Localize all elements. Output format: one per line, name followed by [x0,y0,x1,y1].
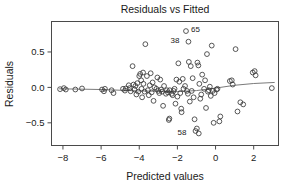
data-point [204,106,209,111]
data-point [130,64,135,69]
x-tick-label: 0 [213,152,218,163]
data-point [143,42,148,47]
data-point [190,76,195,81]
x-axis-title: Predicted values [126,170,204,182]
data-point [233,47,238,52]
x-tick-label: 2 [251,152,256,163]
data-point [176,61,181,66]
scatter-points [58,29,275,136]
outlier-label-38: 38 [171,36,180,45]
data-point [126,83,131,88]
data-point [184,29,189,34]
x-tick-label: −4 [134,152,145,163]
data-point [149,90,154,95]
chart-container: Residuals vs Fitted −8−6−4−202 −0.50.00.… [0,0,292,185]
data-point [192,117,197,122]
data-point [203,78,208,83]
data-point [197,81,202,86]
y-axis-title: Residuals [3,61,15,107]
data-point [161,103,166,108]
data-point [80,86,85,91]
data-point [209,43,214,48]
data-point [217,119,222,124]
outlier-label-65: 65 [191,25,200,34]
data-point [146,93,151,98]
data-point [218,114,223,119]
data-point [139,78,144,83]
data-point [173,101,178,106]
data-point [180,76,185,81]
data-point [183,84,188,89]
data-point [235,109,240,114]
data-point [141,81,146,86]
data-point [200,72,205,77]
data-point [151,98,156,103]
outlier-label-58: 58 [178,128,187,137]
x-axis-ticks: −8−6−4−202 [58,146,257,163]
data-point [186,39,191,44]
data-point [188,64,193,69]
data-point [191,95,196,100]
y-axis-ticks: −0.50.00.5 [26,46,52,128]
x-tick-label: −2 [172,152,183,163]
y-tick-label: 0.5 [31,46,44,57]
x-tick-label: −6 [96,152,107,163]
data-point [211,120,216,125]
data-point [150,80,155,85]
x-tick-label: −8 [58,152,69,163]
data-point [139,86,144,91]
data-point [147,83,152,88]
y-tick-label: 0.0 [31,82,44,93]
y-tick-label: −0.5 [26,117,45,128]
residuals-vs-fitted-plot: Residuals vs Fitted −8−6−4−202 −0.50.00.… [0,0,292,185]
data-point [148,71,153,76]
data-point [196,63,201,68]
data-point [179,110,184,115]
data-point [141,70,146,75]
data-point [205,52,210,57]
data-point [195,60,200,65]
data-point [187,99,192,104]
data-point [269,86,274,91]
data-point [140,95,145,100]
data-point [196,131,201,136]
chart-title: Residuals vs Fitted [121,3,210,15]
data-point [162,84,167,89]
